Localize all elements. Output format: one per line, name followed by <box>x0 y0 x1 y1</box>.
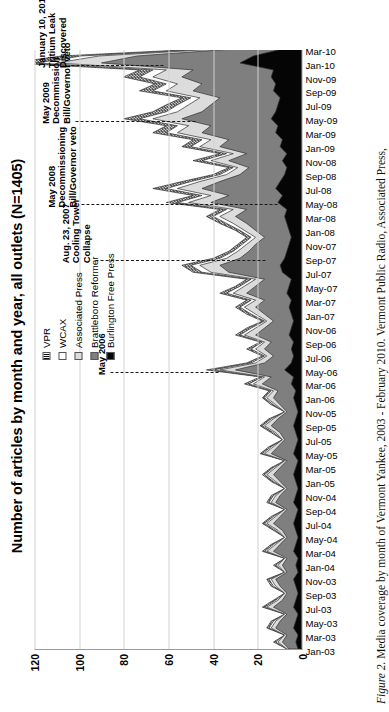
chart-title: Number of articles by month and year, al… <box>8 0 24 712</box>
x-axis-tick-label: May-05 <box>305 450 337 461</box>
annotation-leader-line <box>75 121 195 122</box>
x-axis-tick-label: Nov-05 <box>305 408 336 419</box>
legend-label-associated-press: Associated Press <box>72 272 83 348</box>
annotation-line: Tritium Leak <box>46 0 56 68</box>
annotation-tritium-leak: January 10, 2010Tritium LeakDiscovered <box>36 0 67 68</box>
x-axis-tick-label: Nov-07 <box>305 241 336 252</box>
figure-landscape: Number of articles by month and year, al… <box>0 0 389 712</box>
gridline <box>213 50 214 649</box>
annotation-leader-line <box>110 372 218 373</box>
x-axis-tick-label: Sep-06 <box>305 339 336 350</box>
legend-swatch-icon-brattleboro-reformer <box>90 352 98 360</box>
legend-label-vpr: VPR <box>40 328 51 348</box>
legend-label-brattleboro-reformer: Brattleboro Reformer <box>88 257 99 348</box>
legend-swatch-icon-vpr <box>42 352 50 360</box>
legend-swatch-icon-associated-press <box>74 352 82 360</box>
y-axis-tick-label: 100 <box>73 654 85 672</box>
figure-caption-label: Figure 2. <box>374 662 386 704</box>
annotation-line: May 2008 <box>46 126 56 207</box>
x-axis-tick-label: Nov-04 <box>305 492 336 503</box>
x-axis-tick-label: Sep-05 <box>305 422 336 433</box>
x-axis-tick-label: Jan-05 <box>305 478 334 489</box>
x-axis-tick-label: Mar-05 <box>305 464 335 475</box>
legend-item-associated-press: Associated Press <box>72 253 83 360</box>
x-axis-tick-label: Jul-08 <box>305 185 331 196</box>
legend-swatch-icon-burlington-free-press <box>106 352 114 360</box>
gridline <box>257 50 258 649</box>
x-axis-tick-label: Nov-09 <box>305 74 336 85</box>
x-axis-tick-label: Nov-08 <box>305 157 336 168</box>
legend-item-burlington-free-press: Burlington Free Press <box>104 253 115 360</box>
x-axis-tick-label: Mar-04 <box>305 548 335 559</box>
x-axis-tick-label: May-09 <box>305 115 337 126</box>
x-axis-tick-label: Sep-03 <box>305 590 336 601</box>
legend-item-wcax: WCAX <box>56 253 67 360</box>
chart-container: Number of articles by month and year, al… <box>0 0 357 712</box>
y-axis-tick-label: 40 <box>207 654 219 666</box>
x-axis-tick-label: Mar-10 <box>305 46 335 57</box>
y-axis-tick-label: 60 <box>162 654 174 666</box>
x-axis-tick-label: Jan-04 <box>305 562 334 573</box>
x-axis-tick-label: May-03 <box>305 618 337 629</box>
x-axis-tick-label: Mar-03 <box>305 632 335 643</box>
x-axis-tick-label: Sep-04 <box>305 506 336 517</box>
figure-caption: Figure 2. Media coverage by month of Ver… <box>374 14 387 704</box>
x-axis-tick-label: Jan-08 <box>305 227 334 238</box>
x-axis-tick-label: Jul-09 <box>305 101 331 112</box>
y-axis-tick-label: 120 <box>28 654 40 672</box>
x-axis-tick-label: May-06 <box>305 367 337 378</box>
legend-item-brattleboro-reformer: Brattleboro Reformer <box>88 253 99 360</box>
x-axis-tick-label: Jul-06 <box>305 353 331 364</box>
gridline <box>123 50 124 649</box>
y-axis-tick-label: 20 <box>251 654 263 666</box>
figure-page: Number of articles by month and year, al… <box>0 0 389 712</box>
x-axis-tick-label: May-07 <box>305 283 337 294</box>
x-axis-tick-label: Jul-07 <box>305 269 331 280</box>
legend-item-vpr: VPR <box>40 253 51 360</box>
x-axis-tick-label: Jan-03 <box>305 646 334 657</box>
legend-label-wcax: WCAX <box>56 319 67 348</box>
rotated-figure-wrapper: Number of articles by month and year, al… <box>0 0 389 712</box>
annotation-line: Discovered <box>57 0 67 68</box>
chart-legend: VPR WCAX Associated Press Brattleboro Re… <box>40 253 120 360</box>
x-axis-tick-label: Jan-09 <box>305 143 334 154</box>
gridline <box>168 50 169 649</box>
x-axis-tick-label: Jan-07 <box>305 311 334 322</box>
x-axis-tick-label: May-04 <box>305 534 337 545</box>
x-axis-tick-label: May-08 <box>305 199 337 210</box>
annotation-line: Bill/Governor veto <box>67 126 77 207</box>
x-axis-tick-label: Jul-05 <box>305 436 331 447</box>
x-axis-tick-label: Mar-07 <box>305 297 335 308</box>
x-axis-tick-label: Jul-04 <box>305 520 331 531</box>
annotation-may-2008-veto: May 2008DecommissioningBill/Governor vet… <box>46 126 77 207</box>
x-axis-tick-label: Sep-09 <box>305 87 336 98</box>
annotation-leader-line <box>95 260 265 261</box>
x-axis-tick-label: Nov-03 <box>305 576 336 587</box>
x-axis-tick-label: Sep-07 <box>305 255 336 266</box>
x-axis-tick-label: Mar-08 <box>305 213 335 224</box>
annotation-leader-line <box>81 205 277 206</box>
annotation-line: January 10, 2010 <box>36 0 46 68</box>
x-axis-tick-label: Jan-10 <box>305 60 334 71</box>
x-axis-tick-label: Jul-03 <box>305 604 331 615</box>
legend-label-burlington-free-press: Burlington Free Press <box>104 253 115 348</box>
annotation-line: Decommissioning <box>56 126 66 207</box>
x-axis-tick-label: Mar-09 <box>305 129 335 140</box>
x-axis-tick-label: Nov-06 <box>305 325 336 336</box>
x-axis-tick-label: Jan-06 <box>305 394 334 405</box>
x-axis-tick-label: Sep-08 <box>305 171 336 182</box>
x-axis-tick-label: Mar-06 <box>305 380 335 391</box>
y-axis-tick-label: 80 <box>117 654 129 666</box>
gridline <box>34 50 35 649</box>
figure-caption-text: Media coverage by month of Vermont Yanke… <box>374 148 386 662</box>
annotation-leader-line <box>71 65 163 66</box>
legend-swatch-icon-wcax <box>58 352 66 360</box>
